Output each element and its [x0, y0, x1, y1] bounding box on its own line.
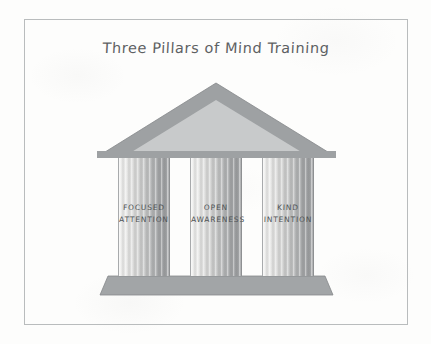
pillar-label-1-line2: ATTENTION: [119, 214, 169, 225]
pillar-open-awareness[interactable]: OPEN AWARENESS: [190, 158, 242, 276]
pillar-label-2-line2: AWARENESS: [191, 214, 241, 225]
stylobate-base: [100, 276, 333, 295]
pillar-label-3-line2: INTENTION: [263, 214, 313, 225]
pillar-label-3-line1: KIND: [263, 202, 313, 213]
pillar-label-1-line1: FOCUSED: [119, 202, 169, 213]
illustration-canvas: Three Pillars of Mind Training FOCUSED A…: [0, 0, 431, 344]
pillar-kind-intention[interactable]: KIND INTENTION: [262, 158, 314, 276]
pillar-focused-attention[interactable]: FOCUSED ATTENTION: [118, 158, 170, 276]
entablature: [97, 151, 336, 158]
pillar-label-2-line1: OPEN: [191, 202, 241, 213]
